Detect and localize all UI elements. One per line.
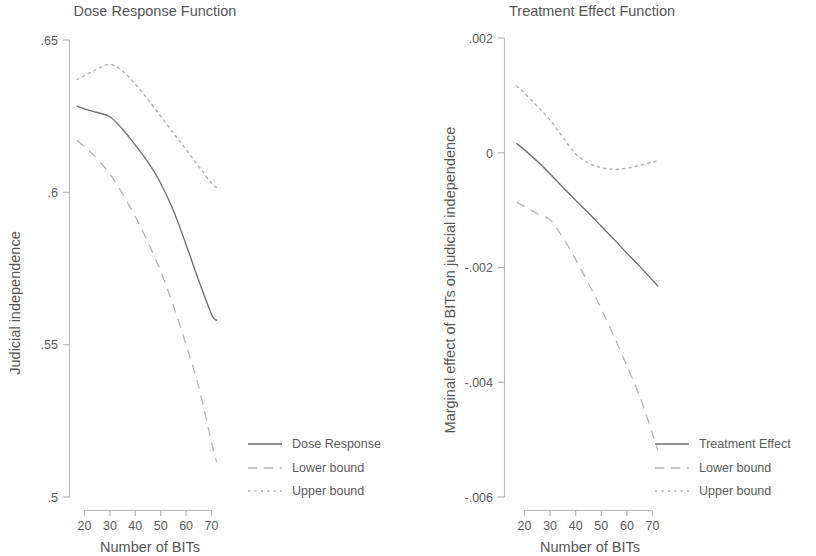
right-legend-label-lower-bound: Lower bound	[699, 461, 771, 475]
right-y-axis-title: Marginal effect of BITs on judicial inde…	[442, 127, 458, 434]
left-x-tick-label-1: 30	[103, 519, 117, 533]
left-x-tick-label-0: 20	[78, 519, 92, 533]
left-y-tick-label-0: .65	[41, 34, 58, 48]
left-panel: Dose Response Function .65 .6 .55 .5 Jud…	[7, 3, 381, 555]
left-series-lower-bound	[77, 141, 217, 462]
right-x-tick-marks	[525, 511, 653, 517]
left-y-tick-label-3: .5	[48, 491, 58, 505]
right-x-tick-label-4: 60	[620, 519, 634, 533]
left-y-axis-title: Judicial independence	[7, 231, 23, 375]
left-legend-label-upper-bound: Upper bound	[292, 484, 364, 498]
right-panel: Treatment Effect Function .002 0 -.002 -…	[442, 3, 791, 555]
left-panel-title: Dose Response Function	[74, 3, 237, 19]
left-y-tick-label-1: .6	[48, 186, 58, 200]
right-legend-label-treatment-effect: Treatment Effect	[699, 437, 791, 451]
left-x-tick-label-3: 50	[154, 519, 168, 533]
right-panel-title: Treatment Effect Function	[509, 3, 675, 19]
left-x-axis-title: Number of BITs	[100, 539, 200, 555]
left-x-tick-label-2: 40	[128, 519, 142, 533]
right-x-axis-title: Number of BITs	[540, 539, 640, 555]
right-y-tick-label-0: .002	[469, 32, 493, 46]
right-x-tick-label-1: 30	[543, 519, 557, 533]
two-panel-line-chart: Dose Response Function .65 .6 .55 .5 Jud…	[0, 0, 816, 556]
right-x-tick-label-5: 70	[646, 519, 660, 533]
right-y-tick-label-4: -.006	[465, 491, 494, 505]
right-y-tick-label-2: -.002	[465, 261, 494, 275]
left-series-upper-bound	[77, 64, 217, 187]
left-series-dose-response	[77, 106, 217, 320]
right-y-tick-label-3: -.004	[465, 376, 494, 390]
right-series-lower-bound	[517, 202, 658, 450]
left-y-tick-label-2: .55	[41, 338, 58, 352]
right-y-tick-label-1: 0	[486, 147, 493, 161]
right-series-treatment-effect	[517, 144, 658, 286]
right-series-upper-bound	[517, 86, 658, 169]
right-legend-label-upper-bound: Upper bound	[699, 484, 771, 498]
right-y-tick-marks	[498, 38, 505, 497]
left-x-tick-label-5: 70	[205, 519, 219, 533]
left-legend-label-lower-bound: Lower bound	[292, 461, 364, 475]
left-y-tick-marks	[63, 40, 70, 497]
right-x-tick-label-2: 40	[569, 519, 583, 533]
left-legend-label-dose-response: Dose Response	[292, 437, 381, 451]
left-x-tick-marks	[85, 511, 212, 517]
right-legend: Treatment Effect Lower bound Upper bound	[655, 437, 791, 498]
right-x-tick-label-3: 50	[594, 519, 608, 533]
left-x-tick-label-4: 60	[179, 519, 193, 533]
figure-canvas: Dose Response Function .65 .6 .55 .5 Jud…	[0, 0, 816, 556]
left-legend: Dose Response Lower bound Upper bound	[248, 437, 381, 498]
right-x-tick-label-0: 20	[518, 519, 532, 533]
